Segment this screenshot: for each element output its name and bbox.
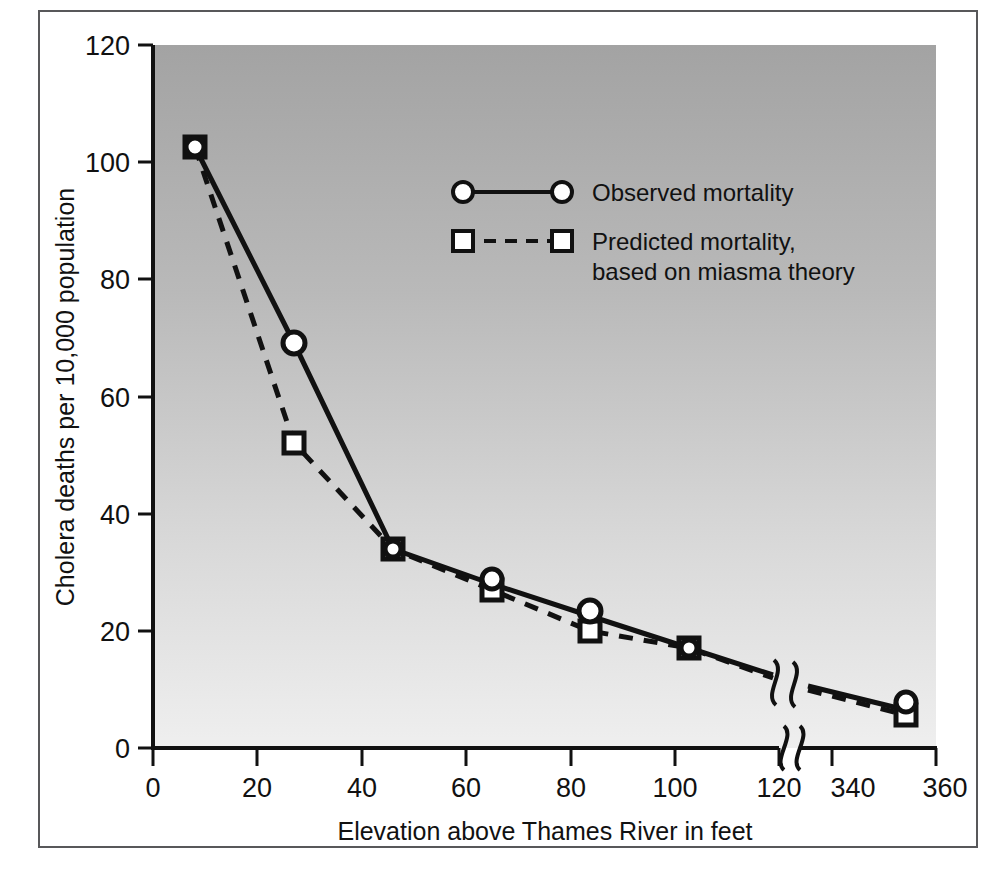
y-tick-label-60: 60 xyxy=(100,383,130,413)
legend-circle-marker-left xyxy=(453,182,473,202)
y-tick-label-40: 40 xyxy=(100,500,130,530)
x-tick-label-100: 100 xyxy=(652,773,697,803)
x-tick-label-120: 120 xyxy=(756,773,801,803)
legend-circle-marker-right xyxy=(552,182,572,202)
x-axis-title: Elevation above Thames River in feet xyxy=(337,817,752,845)
y-tick-label-20: 20 xyxy=(100,617,130,647)
legend-label-predicted-line2: based on miasma theory xyxy=(592,258,855,285)
x-tick-label-20: 20 xyxy=(242,773,272,803)
x-tick-label-0: 0 xyxy=(145,773,160,803)
cholera-mortality-chart: 120 100 80 60 40 20 0 Cholera deaths per… xyxy=(0,0,995,882)
x-tick-label-40: 40 xyxy=(347,773,377,803)
legend-square-marker-left xyxy=(453,231,473,251)
y-axis-ticks xyxy=(138,45,153,748)
legend-square-marker-right xyxy=(552,231,572,251)
x-tick-label-80: 80 xyxy=(556,773,586,803)
x-tick-label-360: 360 xyxy=(922,773,967,803)
legend-label-predicted-line1: Predicted mortality, xyxy=(592,228,796,255)
x-tick-label-340: 340 xyxy=(830,773,875,803)
y-tick-label-0: 0 xyxy=(115,734,130,764)
x-axis-ticks xyxy=(153,748,936,766)
y-tick-label-120: 120 xyxy=(85,31,130,61)
figure-root: 120 100 80 60 40 20 0 Cholera deaths per… xyxy=(0,0,995,882)
y-tick-label-100: 100 xyxy=(85,148,130,178)
x-tick-label-60: 60 xyxy=(451,773,481,803)
plot-area-background xyxy=(153,45,936,748)
y-tick-label-80: 80 xyxy=(100,265,130,295)
y-axis-title: Cholera deaths per 10,000 population xyxy=(51,188,79,606)
legend-label-observed: Observed mortality xyxy=(592,179,793,206)
